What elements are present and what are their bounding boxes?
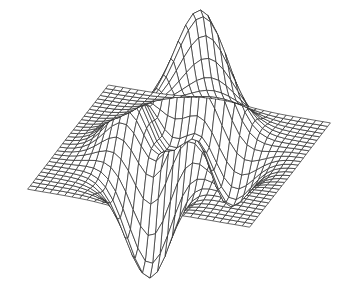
- wireframe-mesh: [0, 0, 358, 288]
